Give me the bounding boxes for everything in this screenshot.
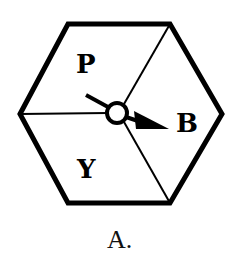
section-label-p: P: [76, 49, 96, 79]
section-label-b: B: [176, 108, 198, 138]
spinner-diagram: P B Y A.: [0, 0, 229, 257]
divider-left: [20, 113, 108, 114]
spinner-hub: [107, 103, 127, 123]
figure-caption: A.: [107, 225, 132, 254]
section-label-y: Y: [76, 154, 96, 184]
